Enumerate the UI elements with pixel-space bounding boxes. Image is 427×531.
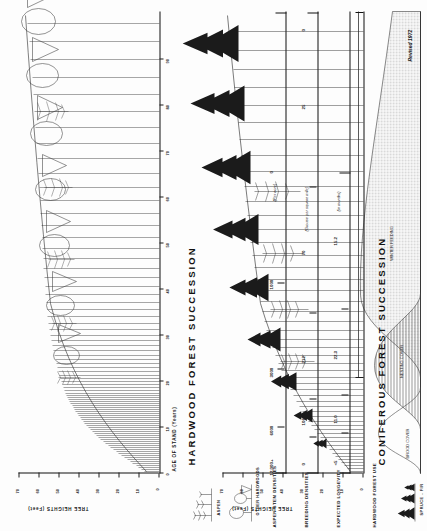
panel-hardwood: TREE HEIGHTS (Feet) 0 10 20 30 40 50 60 … (0, 0, 215, 531)
coniferous-panel-title: CONIFEROUS FOREST SUCCESSION (376, 236, 386, 465)
hardwood-panel-title: HARDWOOD FOREST SUCCESSION (186, 246, 196, 465)
coniferous-key-sprucefir-label: SPRUCE - FIR (419, 483, 423, 515)
figure-page: TREE HEIGHTS (Feet) 0 10 20 30 40 50 60 … (0, 0, 427, 531)
coniferous-key-sprucefir-glyph (392, 482, 416, 522)
hardwood-stand-profile (18, 11, 159, 473)
hardwood-age-axis-title: AGE OF STAND (Years) (172, 406, 177, 471)
coniferous-stand-profile (222, 11, 363, 473)
hardwood-key-aspen-glyph (190, 486, 212, 522)
coniferous-height-axis-title: TREE HEIGHTS (Feet) (231, 504, 292, 509)
revised-note: Revised 1972 (407, 29, 412, 61)
hardwood-height-axis-title: TREE HEIGHTS (Feet) (27, 504, 88, 509)
figure-plate: TREE HEIGHTS (Feet) 0 10 20 30 40 50 60 … (0, 0, 427, 531)
panel-coniferous: TREE HEIGHTS (Feet) 0 10 20 30 40 50 60 … (216, 0, 427, 531)
